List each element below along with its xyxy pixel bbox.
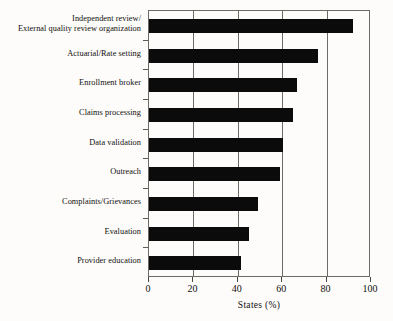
category-axis-labels: Independent review/ External quality rev… [0, 0, 145, 278]
category-axis-tick [143, 99, 148, 100]
gridline-80 [327, 11, 328, 276]
x-tick-0 [148, 277, 149, 282]
category-axis-tick [143, 69, 148, 70]
x-tick-label: 100 [350, 283, 390, 294]
category-label: Complaints/Grievances [0, 197, 141, 207]
category-axis-tick [143, 247, 148, 248]
x-tick-label: 40 [217, 283, 257, 294]
x-axis-title: States (%) [148, 300, 370, 310]
bar-chart-figure: Independent review/ External quality rev… [0, 0, 393, 321]
x-tick-100 [370, 277, 371, 282]
value-axis-tick-labels: 020406080100 [0, 283, 393, 297]
category-axis-tick [143, 40, 148, 41]
bar [149, 256, 241, 270]
x-tick-40 [237, 277, 238, 282]
bar [149, 197, 258, 211]
x-tick-label: 20 [172, 283, 212, 294]
x-tick-label: 80 [306, 283, 346, 294]
category-label: Provider education [0, 256, 141, 266]
category-label: Enrollment broker [0, 78, 141, 88]
category-axis-tick [143, 158, 148, 159]
x-tick-80 [326, 277, 327, 282]
category-axis-ticks [143, 10, 149, 277]
category-label: Evaluation [0, 227, 141, 237]
category-label: Data validation [0, 138, 141, 148]
category-axis-tick [143, 129, 148, 130]
bar [149, 167, 280, 181]
x-tick-60 [281, 277, 282, 282]
category-label: Actuarial/Rate setting [0, 49, 141, 59]
x-tick-label: 60 [261, 283, 301, 294]
category-axis-tick [143, 218, 148, 219]
bar [149, 108, 293, 122]
category-label: Outreach [0, 167, 141, 177]
bar [149, 19, 353, 33]
x-tick-label: 0 [128, 283, 168, 294]
bar [149, 78, 297, 92]
category-label: Independent review/ External quality rev… [0, 14, 141, 33]
category-axis-tick [143, 188, 148, 189]
category-label: Claims processing [0, 108, 141, 118]
bar [149, 138, 283, 152]
bar [149, 49, 318, 63]
bar [149, 227, 249, 241]
plot-area [148, 10, 370, 277]
x-tick-20 [192, 277, 193, 282]
